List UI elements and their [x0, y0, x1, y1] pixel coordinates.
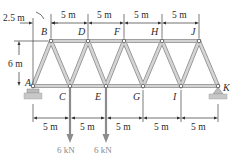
dim-bottom-4: 5 m	[154, 122, 169, 132]
member-EF	[106, 41, 124, 86]
dim-top-4: 5 m	[172, 10, 187, 20]
member-HI	[162, 41, 181, 86]
pin-K	[216, 84, 220, 88]
pin-D	[86, 39, 90, 43]
bottom-dimension-lines	[33, 117, 218, 120]
pin-I	[179, 84, 183, 88]
joint-label-G: G	[133, 91, 140, 102]
joint-label-A: A	[24, 77, 32, 88]
pin-E	[104, 84, 108, 88]
member-DE	[88, 41, 106, 86]
member-IJ	[181, 41, 199, 86]
dim-top-2: 5 m	[97, 10, 112, 20]
pin-B	[49, 39, 53, 43]
joint-label-J: J	[191, 26, 196, 37]
dim-height-label: 6 m	[8, 59, 23, 69]
member-FG	[124, 41, 143, 86]
dim-top-3: 5 m	[134, 10, 149, 20]
member-JK	[199, 41, 218, 86]
truss-members	[33, 41, 218, 86]
pin-C	[68, 84, 72, 88]
truss-diagram: 2.5 m 5 m 5 m 5 m 5 m 6 m B D F H J	[0, 0, 240, 159]
member-AB	[33, 41, 51, 86]
load-arrow-C	[67, 88, 74, 143]
dim-bottom-2: 5 m	[80, 122, 95, 132]
dim-offset-label: 2.5 m	[3, 13, 25, 23]
pin-F	[122, 39, 126, 43]
load-arrow-E	[103, 88, 110, 143]
pin-H	[160, 39, 164, 43]
joint-label-D: D	[77, 26, 86, 37]
joint-label-H: H	[150, 26, 159, 37]
joint-label-I: I	[172, 91, 177, 102]
member-CD	[70, 41, 88, 86]
joint-label-B: B	[41, 26, 47, 37]
dim-bottom-1: 5 m	[43, 122, 58, 132]
joint-label-E: E	[94, 91, 101, 102]
dim-top-1: 5 m	[61, 10, 76, 20]
member-BC	[51, 41, 70, 86]
pin-J	[197, 39, 201, 43]
dim-bottom-3: 5 m	[116, 122, 131, 132]
load-label-C: 6 kN	[57, 145, 75, 155]
dim-bottom-5: 5 m	[191, 122, 206, 132]
member-GH	[143, 41, 162, 86]
joint-label-C: C	[59, 91, 66, 102]
joint-label-F: F	[113, 26, 121, 37]
roller-support-A	[24, 89, 42, 99]
truss-svg: 2.5 m 5 m 5 m 5 m 5 m 6 m B D F H J	[0, 0, 240, 159]
pin-G	[141, 84, 145, 88]
load-label-E: 6 kN	[94, 145, 112, 155]
joint-label-K: K	[222, 82, 231, 93]
pin-A	[31, 84, 35, 88]
